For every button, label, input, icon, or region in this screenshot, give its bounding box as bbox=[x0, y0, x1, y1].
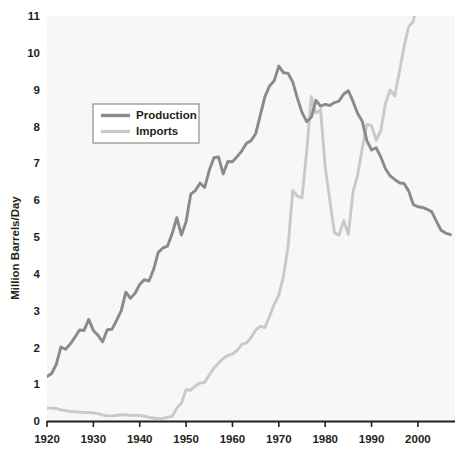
x-tick-label-2000: 2000 bbox=[405, 433, 431, 445]
x-tick-label-1960: 1960 bbox=[220, 433, 246, 445]
plot-area-background bbox=[47, 16, 455, 421]
y-tick-label-9: 9 bbox=[34, 84, 40, 96]
y-tick-label-10: 10 bbox=[27, 47, 40, 59]
y-tick-label-4: 4 bbox=[34, 268, 41, 280]
y-tick-label-6: 6 bbox=[34, 194, 40, 206]
x-axis-tick-labels: 192019301940195019601970198019902000 bbox=[34, 433, 431, 445]
x-tick-label-1970: 1970 bbox=[266, 433, 292, 445]
x-tick-label-1930: 1930 bbox=[81, 433, 107, 445]
y-tick-label-3: 3 bbox=[34, 305, 40, 317]
chart-legend: Production Imports bbox=[93, 104, 199, 143]
y-tick-label-7: 7 bbox=[34, 157, 40, 169]
y-tick-label-8: 8 bbox=[34, 121, 41, 133]
x-tick-label-1980: 1980 bbox=[312, 433, 338, 445]
legend-label-production: Production bbox=[136, 109, 197, 121]
x-tick-label-1990: 1990 bbox=[359, 433, 385, 445]
chart-canvas: 01234567891011 1920193019401950196019701… bbox=[0, 0, 473, 459]
y-tick-label-1: 1 bbox=[34, 378, 41, 390]
x-tick-label-1920: 1920 bbox=[34, 433, 60, 445]
y-tick-label-2: 2 bbox=[34, 342, 40, 354]
x-tick-label-1950: 1950 bbox=[173, 433, 199, 445]
y-tick-label-11: 11 bbox=[28, 10, 41, 22]
x-tick-label-1940: 1940 bbox=[127, 433, 153, 445]
legend-label-imports: Imports bbox=[136, 125, 178, 137]
oil-production-imports-chart: 01234567891011 1920193019401950196019701… bbox=[0, 0, 473, 459]
y-tick-label-5: 5 bbox=[34, 231, 41, 243]
y-tick-label-0: 0 bbox=[34, 415, 40, 427]
y-axis-title: Million Barrels/Day bbox=[9, 196, 21, 300]
